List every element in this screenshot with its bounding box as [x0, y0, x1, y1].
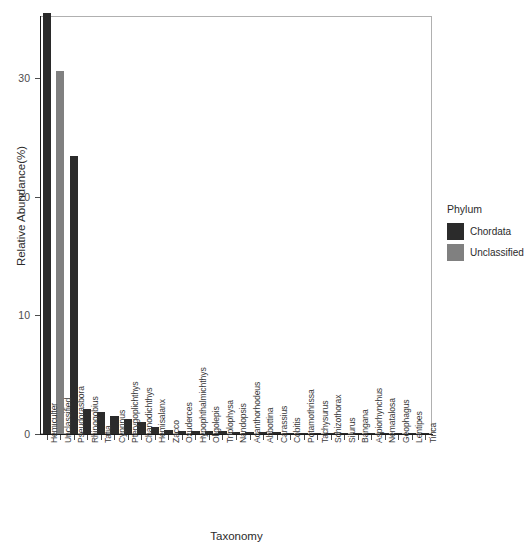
x-tick-label: Schizothorax	[334, 395, 342, 443]
x-tick	[317, 435, 318, 440]
x-tick-label: Hypophthalmichthys	[199, 367, 207, 443]
x-tick-label: Bangana	[361, 409, 369, 443]
x-tick-label: Hemiculter	[50, 403, 58, 443]
x-tick	[425, 435, 426, 440]
bar-unclassified	[56, 71, 64, 434]
y-tick	[35, 315, 40, 316]
x-tick-label: Tachysurus	[321, 401, 329, 443]
y-tick	[35, 78, 40, 79]
x-tick	[182, 435, 183, 440]
x-tick	[371, 435, 372, 440]
x-tick-label: Abbottina	[266, 408, 274, 443]
x-tick-label: Cobitis	[293, 417, 301, 443]
x-tick	[304, 435, 305, 440]
x-tick	[277, 435, 278, 440]
x-tick	[344, 435, 345, 440]
x-tick	[74, 435, 75, 440]
x-tick	[101, 435, 102, 440]
x-tick	[60, 435, 61, 440]
x-tick	[195, 435, 196, 440]
y-axis-title: Relative Abundance(%)	[15, 116, 27, 296]
legend: Phylum ChordataUnclassified	[447, 203, 524, 265]
x-tick-label: Pterygoplichthys	[131, 382, 139, 443]
y-tick-label: 30	[8, 73, 30, 83]
x-tick	[47, 435, 48, 440]
x-tick-label: Unclassified	[64, 398, 72, 443]
x-tick-label: Oxuderces	[185, 402, 193, 443]
x-tick-label: Geophagus	[402, 399, 410, 443]
x-tick	[331, 435, 332, 440]
x-tick	[290, 435, 291, 440]
x-tick-label: Silurus	[348, 417, 356, 443]
x-tick	[87, 435, 88, 440]
y-tick-label: 0	[8, 429, 30, 439]
x-axis-title: Taxonomy	[40, 530, 433, 542]
x-tick	[168, 435, 169, 440]
y-axis-line	[40, 16, 41, 435]
x-tick-label: Potamothrissa	[307, 389, 315, 443]
y-tick	[35, 197, 40, 198]
x-tick	[398, 435, 399, 440]
x-tick-label: Acanthorhodeus	[253, 382, 261, 443]
legend-swatch-icon	[447, 244, 464, 261]
x-tick-label: Cyprinus	[118, 410, 126, 443]
x-tick	[263, 435, 264, 440]
legend-title: Phylum	[447, 203, 524, 215]
x-tick	[236, 435, 237, 440]
x-tick-label: Nematalosa	[388, 398, 396, 443]
x-tick	[358, 435, 359, 440]
x-tick-label: Pseudorasbora	[77, 386, 85, 443]
x-tick	[141, 435, 142, 440]
x-tick	[412, 435, 413, 440]
bars-container	[40, 16, 432, 434]
x-tick-label: Rhinogobius	[91, 396, 99, 443]
x-tick-label: Aspiorhynchus	[375, 388, 383, 443]
x-tick	[209, 435, 210, 440]
x-tick-label: Tatia	[104, 425, 112, 443]
legend-item-unclassified[interactable]: Unclassified	[447, 244, 524, 261]
x-tick-label: Nandopsis	[239, 403, 247, 443]
x-tick	[114, 435, 115, 440]
x-tick	[128, 435, 129, 440]
x-tick-label: Tinca	[429, 423, 437, 443]
legend-items: ChordataUnclassified	[447, 223, 524, 261]
x-tick-label: Carassius	[280, 406, 288, 443]
y-tick-label: 10	[8, 310, 30, 320]
y-tick	[35, 434, 40, 435]
x-tick-label: Oligolepis	[212, 406, 220, 443]
x-tick	[250, 435, 251, 440]
legend-swatch-icon	[447, 223, 464, 240]
legend-item-label: Unclassified	[470, 247, 524, 258]
x-tick-label: Hemisalanx	[158, 399, 166, 443]
x-tick	[385, 435, 386, 440]
bar-hemiculter	[43, 13, 51, 434]
x-tick-label: Zacco	[172, 420, 180, 443]
chart-figure: 0102030 HemiculterUnclassifiedPseudorasb…	[0, 0, 528, 558]
x-tick	[155, 435, 156, 440]
x-tick	[222, 435, 223, 440]
legend-item-chordata[interactable]: Chordata	[447, 223, 524, 240]
x-tick-label: Lentipes	[415, 411, 423, 443]
legend-item-label: Chordata	[470, 226, 511, 237]
x-tick-label: Chanodichthys	[145, 387, 153, 443]
x-tick-label: Triplophysa	[226, 400, 234, 443]
